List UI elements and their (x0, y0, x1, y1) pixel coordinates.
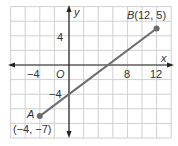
tick-label-x-neg4: −4 (27, 68, 40, 80)
coordinate-plane: y x O −4 8 12 4 −4 A (−4, −7) B(12, 5) (0, 0, 178, 146)
y-axis-up-arrow-icon (67, 5, 72, 12)
y-axis (67, 5, 72, 138)
point-b-coords: (12, 5) (134, 9, 166, 21)
origin-label: O (56, 68, 65, 80)
point-a (37, 113, 43, 119)
tick-label-y-neg4: −4 (49, 88, 62, 100)
point-a-coords: (−4, −7) (13, 123, 52, 135)
tick-label-y-4: 4 (57, 31, 63, 43)
point-b-label: B(12, 5) (127, 9, 166, 21)
x-axis-right-arrow-icon (167, 63, 174, 68)
point-b (154, 26, 160, 32)
point-b-name: B (127, 9, 134, 21)
y-axis-down-arrow-icon (67, 131, 72, 138)
tick-label-x-12: 12 (150, 68, 162, 80)
point-a-name: A (26, 108, 34, 120)
y-axis-label: y (73, 6, 81, 18)
x-axis (8, 63, 174, 68)
tick-label-x-8: 8 (124, 68, 130, 80)
x-axis-left-arrow-icon (8, 63, 15, 68)
x-axis-label: x (160, 52, 167, 64)
